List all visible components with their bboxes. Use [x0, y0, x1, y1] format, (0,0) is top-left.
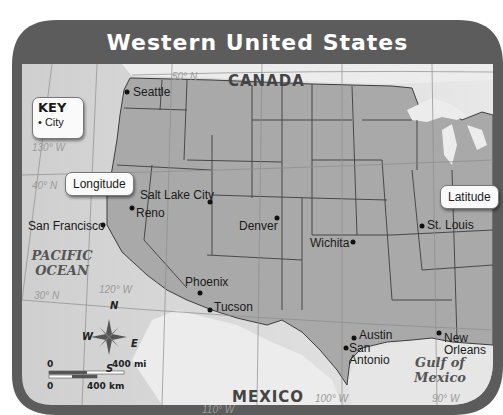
gridlabel-30n: 30° N [34, 290, 59, 301]
label-canada: CANADA [228, 72, 305, 90]
compass-n-label: N [110, 300, 118, 311]
key-title: KEY [38, 100, 78, 116]
city-label-austin: Austin [359, 328, 392, 342]
map-key: KEY • City [32, 97, 84, 139]
scale-miles: 400 mi [112, 359, 146, 369]
label-pacific-ocean: PACIFIC OCEAN [27, 248, 97, 278]
city-label-san-antonio: San Antonio [349, 342, 390, 366]
city-label-new-orleans: New Orleans [444, 332, 486, 356]
city-dot-icon: • [38, 116, 42, 128]
gridlabel-130w: 130° W [32, 142, 65, 153]
scale-km: 400 km [87, 381, 124, 391]
gridlabel-120w: 120° W [99, 284, 132, 295]
city-label-denver: Denver [239, 219, 278, 233]
gridlabel-40n: 40° N [32, 180, 57, 191]
gridlabel-50n: 50° N [172, 71, 197, 82]
callout-longitude: Longitude [65, 172, 134, 196]
city-label-salt-lake-city: Salt Lake City [140, 188, 214, 202]
label-gulf-of-mexico: Gulf of Mexico [410, 355, 470, 385]
city-label-san-francisco: San Francisco [28, 219, 105, 233]
city-label-st-louis: St. Louis [427, 218, 474, 232]
map-title: Western United States [12, 20, 503, 64]
city-label-phoenix: Phoenix [185, 275, 228, 289]
scale-zero-bottom: 0 [47, 381, 53, 391]
compass-e-label: E [131, 338, 138, 349]
city-label-reno: Reno [136, 206, 165, 220]
gridlabel-100w: 100° W [315, 393, 348, 404]
city-label-seattle: Seattle [133, 85, 170, 99]
gridlabel-110w: 110° W [202, 404, 234, 415]
gridlabel-90w: 90° W [432, 393, 459, 404]
key-item-city: • City [38, 116, 78, 129]
label-mexico: MEXICO [232, 388, 304, 406]
compass-w-label: W [82, 331, 93, 342]
city-label-tucson: Tucson [214, 300, 253, 314]
callout-latitude: Latitude [440, 185, 499, 209]
map-frame: Western United States KEY • City CANADA … [12, 20, 503, 415]
city-label-wichita: Wichita [310, 236, 349, 250]
key-item-label: City [45, 116, 64, 128]
scale-zero-top: 0 [47, 359, 53, 369]
